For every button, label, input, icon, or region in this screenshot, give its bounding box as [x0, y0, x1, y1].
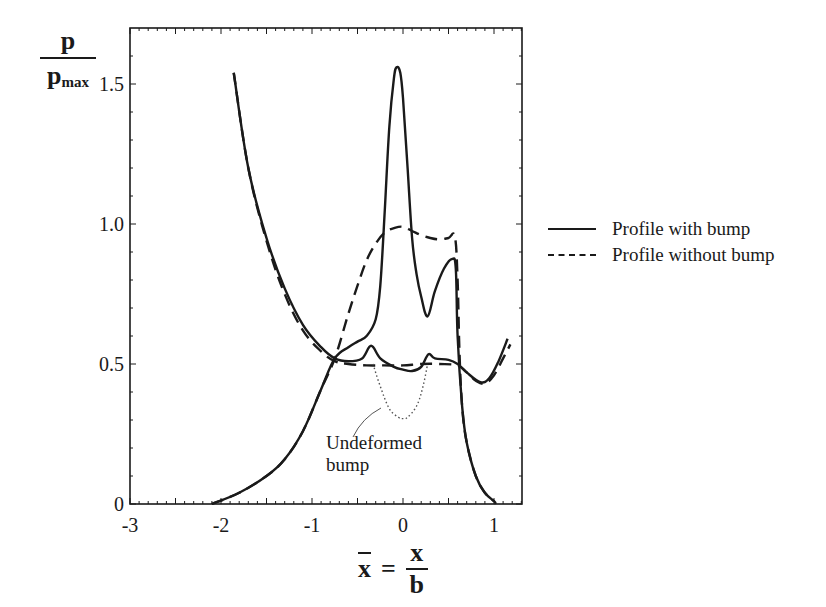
y-label-fraction-bar — [40, 57, 96, 59]
svg-text:-2: -2 — [213, 514, 230, 536]
svg-text:0: 0 — [114, 493, 124, 515]
dashed-line-icon — [548, 254, 596, 256]
svg-text:-3: -3 — [122, 514, 139, 536]
x-label-numerator: x — [410, 540, 423, 568]
y-label-numerator: p — [40, 28, 96, 57]
legend: Profile with bump Profile without bump — [548, 216, 775, 268]
x-label-fraction: x b — [406, 540, 428, 598]
x-label-denominator: b — [406, 568, 428, 598]
legend-item-without-bump: Profile without bump — [548, 242, 775, 268]
legend-label: Profile with bump — [612, 218, 750, 240]
solid-line-icon — [548, 228, 596, 230]
profile-without-bump-line — [234, 73, 511, 384]
svg-text:-1: -1 — [304, 514, 321, 536]
x-label-variable: x — [358, 554, 371, 584]
svg-text:1.5: 1.5 — [99, 73, 124, 95]
chart-plot: -3-2-10100.51.01.5 — [0, 0, 826, 607]
svg-text:0.5: 0.5 — [99, 353, 124, 375]
annotation-line-1: Undeformed — [326, 432, 422, 454]
x-axis-label: x = x b — [358, 540, 428, 598]
undeformed-bump-line — [373, 364, 428, 419]
legend-item-with-bump: Profile with bump — [548, 216, 775, 242]
x-label-equals: = — [381, 554, 396, 584]
y-axis-label: p pmax — [40, 28, 96, 90]
tick-labels: -3-2-10100.51.01.5 — [99, 73, 499, 536]
legend-label: Profile without bump — [612, 244, 775, 266]
annotation-line-2: bump — [326, 454, 422, 476]
svg-text:1: 1 — [489, 514, 499, 536]
profile-with-bump-line — [234, 73, 508, 383]
svg-text:1.0: 1.0 — [99, 213, 124, 235]
y-label-denominator: pmax — [40, 63, 96, 90]
svg-text:0: 0 — [398, 514, 408, 536]
annotation-undeformed-bump: Undeformed bump — [326, 432, 422, 476]
